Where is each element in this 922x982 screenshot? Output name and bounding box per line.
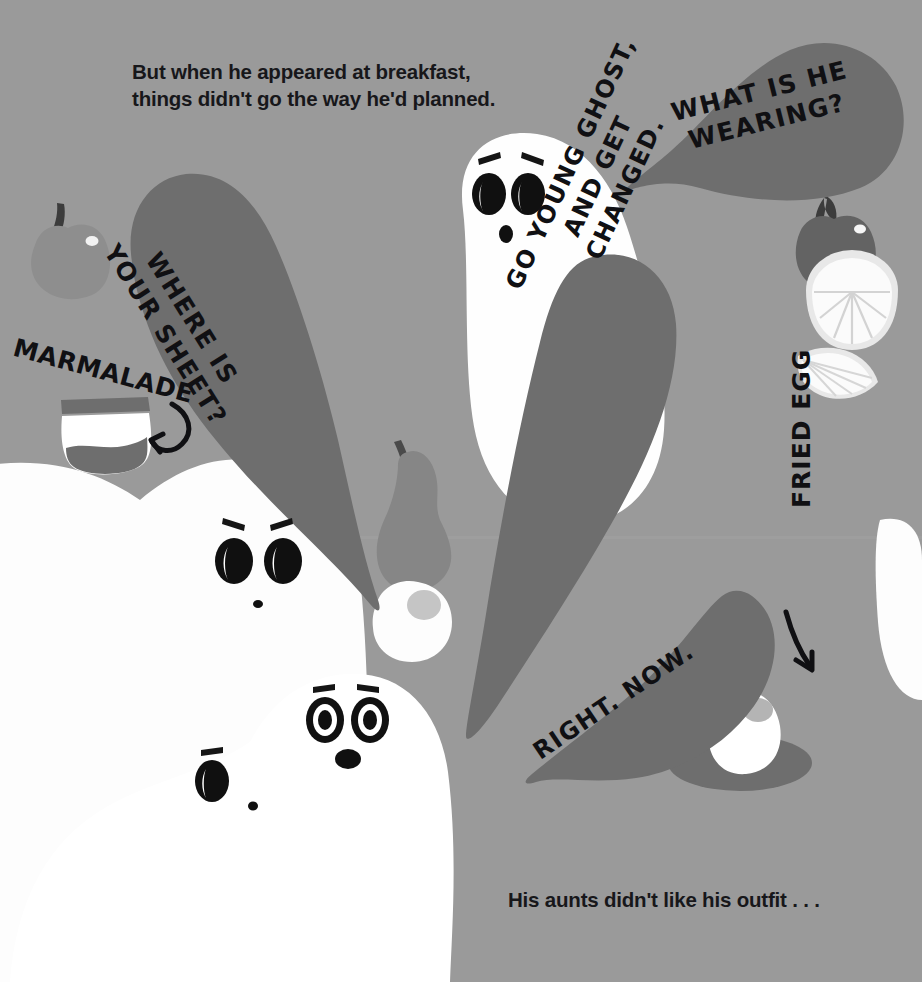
fried-egg-loose-yolk bbox=[407, 590, 441, 620]
illustration-page: But when he appeared at breakfast, thing… bbox=[0, 0, 922, 982]
narration-top: But when he appeared at breakfast, thing… bbox=[132, 58, 495, 112]
front-aunt-eye-right-pupil bbox=[363, 710, 377, 730]
left-aunt-mouth bbox=[253, 600, 263, 608]
marmalade-jar-group bbox=[61, 397, 151, 474]
narration-bottom: His aunts didn't like his outfit . . . bbox=[508, 886, 820, 913]
label-fried-egg: FRIED EGG bbox=[786, 349, 817, 508]
fried-egg-loose-group bbox=[373, 581, 452, 662]
front-aunt-mouth bbox=[335, 749, 361, 769]
centre-ghost-eye-left bbox=[472, 173, 506, 215]
small-ghost-eye bbox=[195, 760, 229, 802]
small-ghost-mouth bbox=[248, 802, 258, 811]
apple-left-body bbox=[31, 224, 110, 299]
illustration-canvas bbox=[0, 0, 922, 982]
marmalade-jar-lid bbox=[61, 397, 150, 414]
grapefruit-half-group bbox=[806, 250, 898, 350]
fried-egg-loose-white bbox=[373, 581, 452, 662]
left-aunt-eye-right bbox=[264, 538, 302, 584]
front-aunt-eye-left-pupil bbox=[318, 710, 332, 730]
centre-ghost-mouth bbox=[499, 225, 513, 243]
apple-left-highlight bbox=[86, 236, 99, 246]
apple-right-highlight bbox=[854, 225, 866, 234]
left-aunt-eye-left bbox=[215, 538, 253, 584]
